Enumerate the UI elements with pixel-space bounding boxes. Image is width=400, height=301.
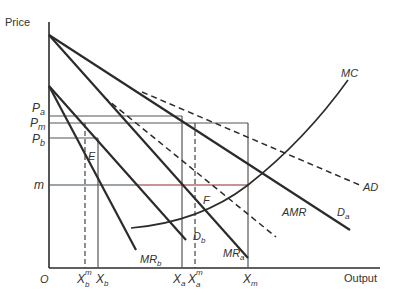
mra-label: MRa [223,247,245,262]
point-e-label: E [88,150,96,162]
xm-label: Xm [242,272,258,288]
svg-text:Xm: Xm [242,272,258,288]
origin-label: O [40,273,49,285]
pb-label: Pb [32,132,45,148]
svg-text:Da: Da [337,206,350,221]
point-f-label: F [203,194,211,206]
xb-label: Xb [95,272,109,288]
svg-text:Pb: Pb [32,132,45,148]
db-label: Db [193,230,206,245]
svg-text:m: m [34,178,44,192]
mrb-label: MRb [140,253,162,268]
ad-label: AD [362,181,378,193]
svg-text:Xb: Xb [95,272,109,288]
svg-text:m: m [196,268,203,277]
svg-text:Db: Db [193,230,206,245]
y-axis-label: Price [5,16,30,28]
da-label: Da [337,206,350,221]
pm-label: Pm [30,116,46,132]
mc-curve [131,80,348,228]
economics-diagram: Price Output O Pa Pm Pb m X m b Xb Xa X … [0,0,400,301]
svg-text:MRb: MRb [140,253,162,268]
x-axis-label: Output [344,272,377,284]
svg-text:MRa: MRa [223,247,245,262]
svg-text:b: b [85,280,90,289]
svg-text:Pa: Pa [32,101,45,117]
svg-text:Xa: Xa [172,272,186,288]
mra-curve [49,35,248,258]
m-label: m [34,178,44,192]
xa-label: Xa [172,272,186,288]
xbm-label: X m b [76,268,92,289]
svg-text:a: a [196,280,201,289]
svg-text:m: m [85,268,92,277]
svg-text:Pm: Pm [30,116,46,132]
amr-label: AMR [281,206,307,218]
mc-label: MC [341,67,358,79]
pa-label: Pa [32,101,45,117]
xam-label: X m a [187,268,203,289]
